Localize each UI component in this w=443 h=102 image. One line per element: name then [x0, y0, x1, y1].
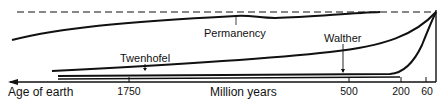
tick-label-1750: 1750	[117, 86, 140, 97]
permanency-label: Permanency	[204, 28, 266, 39]
tick-label-60: 60	[421, 86, 433, 97]
tick-label-500: 500	[340, 86, 358, 97]
axis-label-million-years: Million years	[210, 86, 277, 98]
twenhofel-label: Twenhofel	[120, 53, 170, 64]
walther-label: Walther	[324, 33, 362, 44]
walther-curve	[52, 12, 436, 71]
tick-label-200: 200	[392, 86, 410, 97]
twenhofel-arrowhead	[143, 68, 147, 71]
walther-arrowhead	[341, 69, 345, 73]
axis-label-age-of-earth: Age of earth	[8, 86, 73, 98]
